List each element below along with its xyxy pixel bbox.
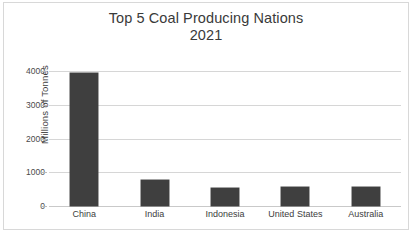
gridline-1000 xyxy=(49,172,401,173)
x-label-china: China xyxy=(49,209,119,220)
x-label-australia: Australia xyxy=(331,209,401,220)
y-tick-mark xyxy=(40,71,47,72)
bar-india xyxy=(141,180,169,206)
chart-card: Top 5 Coal Producing Nations 2021 Millio… xyxy=(3,2,409,230)
axis-baseline-0 xyxy=(49,206,401,207)
chart-title-line-2: 2021 xyxy=(4,27,408,44)
page-text-bleed xyxy=(8,232,404,237)
bar-united-states xyxy=(281,187,309,206)
x-label-indonesia: Indonesia xyxy=(190,209,260,220)
chart-title-line-1: Top 5 Coal Producing Nations xyxy=(109,10,304,26)
chart-title: Top 5 Coal Producing Nations 2021 xyxy=(4,10,408,43)
bar-china xyxy=(70,73,98,206)
gridline-2000 xyxy=(49,139,401,140)
y-tick-mark xyxy=(40,172,47,173)
y-axis-tick-labels: 4000 3000 2000 1000 0 xyxy=(4,71,45,206)
y-tick-mark xyxy=(40,206,47,207)
x-label-india: India xyxy=(119,209,189,220)
gridline-3000 xyxy=(49,105,401,106)
y-tick-mark xyxy=(40,139,47,140)
gridline-4000 xyxy=(49,71,401,72)
y-tick-mark xyxy=(40,105,47,106)
x-label-united-states: United States xyxy=(260,209,330,220)
plot-area xyxy=(49,71,401,206)
bar-indonesia xyxy=(211,188,239,206)
x-axis-labels: China India Indonesia United States Aust… xyxy=(49,209,401,225)
bar-australia xyxy=(352,187,380,206)
